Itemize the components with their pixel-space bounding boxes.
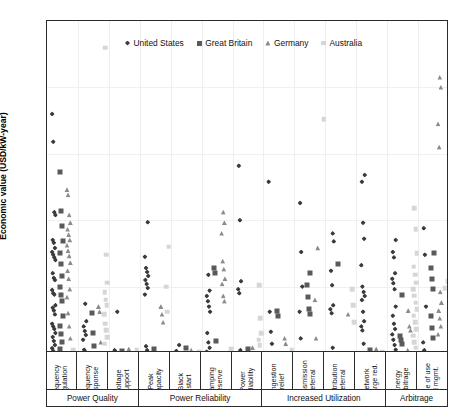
data-point-us bbox=[359, 179, 364, 184]
data-point-au bbox=[414, 251, 419, 256]
data-point-gb bbox=[59, 299, 64, 304]
x-axis-category-congestion-relief[interactable]: Congestionrelief bbox=[262, 352, 293, 390]
x-axis-category-frequency-regulation[interactable]: Frequencyregulation bbox=[46, 352, 77, 390]
data-point-us bbox=[236, 163, 241, 168]
data-point-au bbox=[414, 327, 419, 332]
x-axis-group-increased-utilization: Increased Utilization bbox=[262, 390, 386, 407]
data-point-us bbox=[207, 288, 212, 293]
data-point-au bbox=[103, 321, 108, 326]
x-axis-category-power-reliability[interactable]: Powerreliability bbox=[232, 352, 263, 390]
x-axis-category-time-of-use-bill-mgmt[interactable]: Time of usebill mgmt. bbox=[417, 352, 448, 390]
data-point-us bbox=[328, 307, 333, 312]
x-axis-group-power-reliability: Power Reliability bbox=[139, 390, 263, 407]
data-point-us bbox=[393, 327, 398, 332]
data-point-us bbox=[144, 266, 149, 271]
data-point-us bbox=[145, 348, 150, 351]
x-axis-category-black-start[interactable]: Blackstart bbox=[170, 352, 201, 390]
data-point-au bbox=[412, 206, 417, 211]
data-point-au bbox=[442, 286, 447, 291]
data-point-de bbox=[67, 238, 72, 243]
data-point-gb bbox=[59, 262, 64, 267]
data-point-au bbox=[413, 272, 418, 277]
data-point-us bbox=[267, 309, 272, 314]
data-point-au bbox=[166, 244, 171, 249]
data-point-de bbox=[345, 312, 350, 317]
data-point-au bbox=[413, 300, 418, 305]
gridline-vertical bbox=[356, 21, 357, 351]
x-axis-category-network-charge-red[interactable]: Networkcharge red. bbox=[355, 352, 386, 390]
data-point-gb bbox=[306, 295, 311, 300]
gridline-vertical bbox=[171, 21, 172, 351]
data-point-au bbox=[102, 290, 107, 295]
data-point-us bbox=[391, 337, 396, 342]
data-point-us bbox=[82, 329, 87, 334]
data-point-gb bbox=[60, 340, 65, 345]
x-axis-category-voltage-support[interactable]: Voltagesupport bbox=[108, 352, 139, 390]
data-point-us bbox=[177, 343, 182, 348]
legend-label: Germany bbox=[274, 38, 308, 48]
data-point-us bbox=[142, 254, 147, 259]
data-point-us bbox=[144, 344, 149, 349]
x-axis-category-ramping-reserve[interactable]: Rampingreserve bbox=[201, 352, 232, 390]
data-point-de bbox=[435, 332, 440, 337]
legend-item-united-states[interactable]: United States bbox=[125, 38, 184, 48]
data-point-gb bbox=[58, 292, 63, 297]
data-point-us bbox=[269, 341, 274, 346]
data-point-au bbox=[290, 348, 295, 351]
data-point-gb bbox=[431, 287, 436, 292]
data-point-us bbox=[142, 292, 147, 297]
data-point-us bbox=[298, 200, 303, 205]
data-point-au bbox=[165, 310, 170, 315]
data-point-us bbox=[359, 324, 364, 329]
data-point-gb bbox=[59, 332, 64, 337]
data-point-de bbox=[407, 324, 412, 329]
legend-marker-diamond-icon bbox=[125, 41, 130, 46]
data-point-au bbox=[105, 303, 110, 308]
legend-item-great-britain[interactable]: Great Britain bbox=[197, 38, 253, 48]
x-axis-category-label: Energyarbitrage bbox=[394, 367, 409, 390]
data-point-gb bbox=[184, 345, 189, 350]
data-point-de bbox=[65, 227, 70, 232]
x-axis-category-label: Frequencyresponse bbox=[84, 364, 99, 390]
x-axis-category-peak-capacity[interactable]: Peakcapacity bbox=[139, 352, 170, 390]
data-point-au bbox=[102, 312, 107, 317]
legend-item-germany[interactable]: Germany bbox=[265, 38, 308, 48]
data-point-gb bbox=[430, 276, 435, 281]
x-axis-category-label: Peakcapacity bbox=[146, 368, 161, 390]
gridline-vertical bbox=[109, 21, 110, 351]
gridline-vertical bbox=[387, 21, 388, 351]
x-axis-group-label: Arbitrage bbox=[400, 394, 433, 403]
data-point-us bbox=[174, 349, 179, 352]
x-axis-category-frequency-response[interactable]: Frequencyresponse bbox=[77, 352, 108, 390]
data-point-us bbox=[361, 289, 366, 294]
data-point-us bbox=[362, 293, 367, 298]
data-point-us bbox=[115, 309, 120, 314]
data-point-us bbox=[393, 271, 398, 276]
data-point-us bbox=[391, 255, 396, 260]
x-axis-category-energy-arbitrage[interactable]: Energyarbitrage bbox=[386, 352, 417, 390]
legend-item-australia[interactable]: Australia bbox=[321, 38, 362, 48]
x-axis-group-label: Increased Utilization bbox=[287, 394, 361, 403]
gridline-vertical bbox=[140, 21, 141, 351]
data-point-us bbox=[421, 226, 426, 231]
data-point-gb bbox=[430, 336, 435, 341]
gridline-vertical bbox=[263, 21, 264, 351]
x-axis-category-transmission-deferral[interactable]: Transmissiondeferral bbox=[293, 352, 324, 390]
legend-marker-circle-icon bbox=[321, 41, 326, 46]
gridline-vertical bbox=[294, 21, 295, 351]
data-point-de bbox=[437, 316, 442, 321]
data-point-au bbox=[413, 227, 418, 232]
data-point-gb bbox=[429, 266, 434, 271]
data-point-au bbox=[164, 284, 169, 289]
data-point-us bbox=[330, 345, 335, 350]
data-point-us bbox=[81, 337, 86, 342]
legend-label: Great Britain bbox=[205, 38, 252, 48]
data-point-us bbox=[360, 284, 365, 289]
data-point-au bbox=[413, 320, 418, 325]
x-axis-category-distribution-deferral[interactable]: Distributiondeferral bbox=[324, 352, 355, 390]
legend-marker-triangle-icon bbox=[265, 41, 270, 46]
data-point-us bbox=[330, 231, 335, 236]
data-point-de bbox=[65, 248, 70, 253]
data-point-de bbox=[374, 347, 379, 351]
data-point-gb bbox=[58, 324, 63, 329]
